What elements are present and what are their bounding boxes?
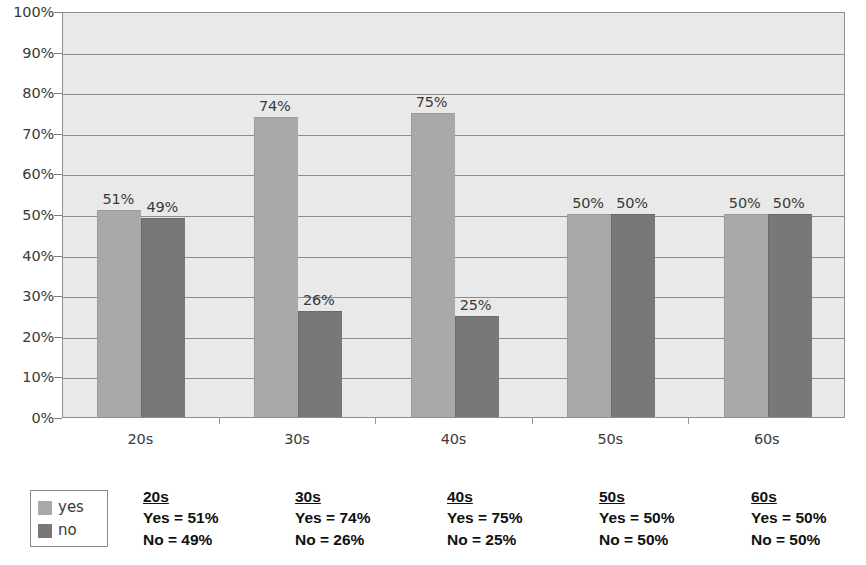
summary-column-40s: 40sYes = 75%No = 25% [447,487,597,551]
bar-20s-yes [97,210,141,417]
chart-legend: yesno [30,490,108,547]
bar-chart-figure: 0%10%20%30%40%50%60%70%80%90%100% 51%49%… [0,0,866,470]
x-axis-label-50s: 50s [570,432,650,447]
y-axis-tick-label: 60% [0,167,54,182]
y-axis-tick-mark [54,296,62,297]
legend-swatch-no [38,524,52,538]
bar-50s-no [611,214,655,417]
x-axis-label-20s: 20s [100,432,180,447]
y-axis-tick-mark [54,337,62,338]
legend-label-no: no [58,523,77,538]
bar-60s-no [768,214,812,417]
summary-no-20s: No = 49% [143,529,293,551]
x-axis-tick-mark [219,418,220,424]
y-axis-tick-mark [54,377,62,378]
y-axis-tick-label: 30% [0,289,54,304]
summary-column-30s: 30sYes = 74%No = 26% [295,487,445,551]
bar-40s-yes [411,113,455,418]
x-axis-label-40s: 40s [414,432,494,447]
summary-no-50s: No = 50% [599,529,749,551]
y-axis-tick-label: 20% [0,330,54,345]
summary-header-20s: 20s [143,487,293,507]
x-axis-label-60s: 60s [727,432,807,447]
bar-30s-no [298,311,342,417]
bar-20s-no [141,218,185,417]
y-axis-tick-label: 40% [0,249,54,264]
x-axis-label-30s: 30s [257,432,337,447]
summary-column-20s: 20sYes = 51%No = 49% [143,487,293,551]
bar-value-label-40s-no: 25% [446,298,506,313]
y-axis-tick-mark [54,134,62,135]
y-axis-tick-mark [54,12,62,13]
summary-header-50s: 50s [599,487,749,507]
summary-header-60s: 60s [751,487,866,507]
legend-item-yes: yes [38,496,107,519]
summary-yes-20s: Yes = 51% [143,507,293,529]
y-axis-tick-mark [54,93,62,94]
y-axis-tick-label: 50% [0,208,54,223]
bar-value-label-50s-no: 50% [602,196,662,211]
summary-column-50s: 50sYes = 50%No = 50% [599,487,749,551]
bar-value-label-40s-yes: 75% [402,95,462,110]
y-axis-tick-mark [54,215,62,216]
bar-value-label-60s-no: 50% [759,196,819,211]
y-axis-tick-mark [54,256,62,257]
summary-table: 20sYes = 51%No = 49%30sYes = 74%No = 26%… [143,487,858,557]
y-axis-tick-mark [54,174,62,175]
bar-value-label-30s-yes: 74% [245,99,305,114]
y-axis-tick-label: 0% [0,411,54,426]
bar-value-label-20s-no: 49% [132,200,192,215]
y-axis-tick-mark [54,418,62,419]
y-axis-tick-label: 10% [0,370,54,385]
bar-value-label-30s-no: 26% [289,293,349,308]
summary-yes-30s: Yes = 74% [295,507,445,529]
x-axis-tick-mark [688,418,689,424]
y-axis-tick-mark [54,53,62,54]
legend-swatch-yes [38,501,52,515]
gridline [63,54,844,55]
summary-no-40s: No = 25% [447,529,597,551]
bar-50s-yes [567,214,611,417]
summary-column-60s: 60sYes = 50%No = 50% [751,487,866,551]
y-axis-tick-label: 70% [0,127,54,142]
y-axis-tick-label: 80% [0,86,54,101]
summary-header-30s: 30s [295,487,445,507]
plot-area [62,12,845,418]
summary-header-40s: 40s [447,487,597,507]
bar-30s-yes [254,117,298,417]
summary-yes-50s: Yes = 50% [599,507,749,529]
bar-60s-yes [724,214,768,417]
x-axis-tick-mark [375,418,376,424]
y-axis-tick-label: 90% [0,46,54,61]
y-axis-tick-label: 100% [0,5,54,20]
legend-label-yes: yes [58,500,84,515]
bar-40s-no [455,316,499,418]
summary-yes-60s: Yes = 50% [751,507,866,529]
summary-no-60s: No = 50% [751,529,866,551]
summary-no-30s: No = 26% [295,529,445,551]
x-axis-tick-mark [532,418,533,424]
summary-yes-40s: Yes = 75% [447,507,597,529]
legend-item-no: no [38,519,107,542]
